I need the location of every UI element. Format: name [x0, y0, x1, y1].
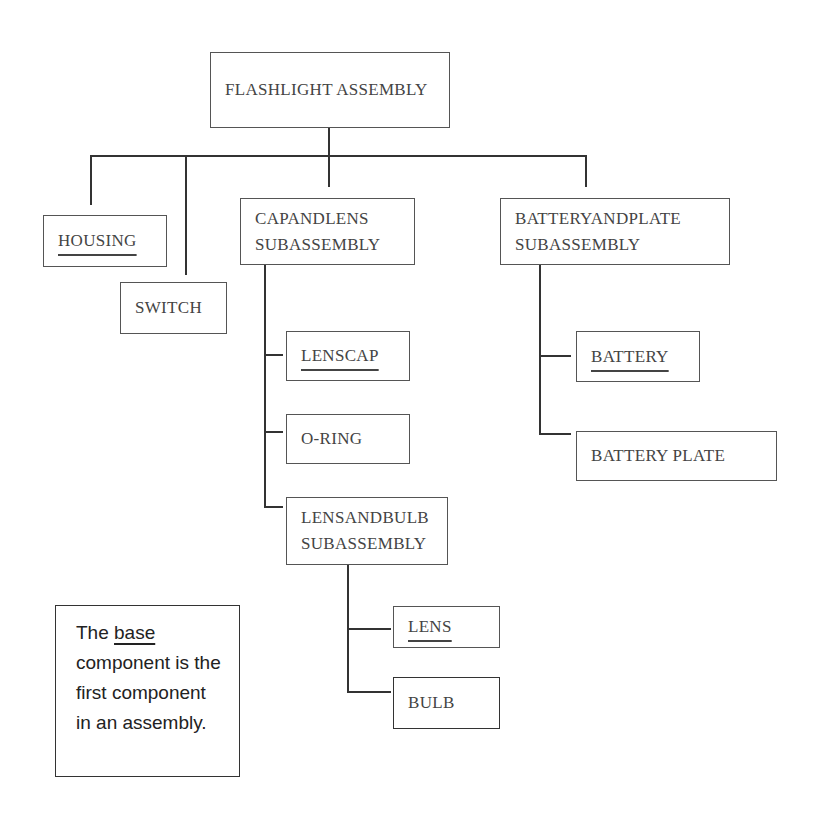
- node-battery: BATTERY: [576, 331, 700, 382]
- node-battery-plate: BATTERY PLATE: [576, 431, 777, 481]
- note-rest: component is the first component in an a…: [76, 652, 221, 733]
- node-label: BATTERY: [591, 344, 699, 370]
- connector-switch: [185, 155, 187, 275]
- node-label-line2: SUBASSEMBLY: [255, 232, 414, 258]
- node-capandlens-subassembly: CAPANDLENS SUBASSEMBLY: [240, 198, 415, 265]
- connector-oring: [264, 431, 283, 433]
- node-label: HOUSING: [58, 228, 166, 254]
- connector-battery: [539, 355, 571, 357]
- node-lenscap: LENSCAP: [286, 331, 410, 381]
- node-label: FLASHLIGHT ASSEMBLY: [225, 77, 449, 103]
- node-lens: LENS: [393, 606, 500, 648]
- node-flashlight-assembly: FLASHLIGHT ASSEMBLY: [210, 52, 450, 128]
- connector-batteryandplate: [585, 155, 587, 187]
- node-label: LENS: [408, 614, 499, 640]
- node-label: SWITCH: [135, 295, 226, 321]
- connector-capandlens-spine: [264, 264, 266, 507]
- note-keyword-base: base: [114, 622, 155, 643]
- node-label-line1: LENSANDBULB: [301, 505, 447, 531]
- node-batteryandplate-subassembly: BATTERYANDPLATE SUBASSEMBLY: [500, 198, 730, 265]
- node-bulb: BULB: [393, 677, 500, 729]
- connector-batteryplate: [539, 433, 571, 435]
- node-housing: HOUSING: [43, 215, 167, 267]
- connector-bulb: [347, 691, 391, 693]
- node-label-line2: SUBASSEMBLY: [515, 232, 729, 258]
- note-prefix: The: [76, 622, 114, 643]
- node-label-line2: SUBASSEMBLY: [301, 531, 447, 557]
- connector-lens: [347, 628, 391, 630]
- connector-capandlens: [328, 155, 330, 187]
- base-component-note: The base component is the first componen…: [55, 605, 240, 777]
- node-oring: O-RING: [286, 414, 410, 464]
- node-switch: SWITCH: [120, 282, 227, 334]
- connector-batteryandplate-spine: [539, 264, 541, 434]
- node-label: O-RING: [301, 426, 409, 452]
- node-label-line1: BATTERYANDPLATE: [515, 206, 729, 232]
- node-label: LENSCAP: [301, 343, 409, 369]
- node-lensandbulb-subassembly: LENSANDBULB SUBASSEMBLY: [286, 497, 448, 565]
- node-label: BULB: [408, 690, 499, 716]
- connector-root-down: [328, 128, 330, 156]
- connector-lenscap: [264, 354, 283, 356]
- connector-top-bus: [90, 155, 586, 157]
- node-label-line1: CAPANDLENS: [255, 206, 414, 232]
- assembly-diagram: FLASHLIGHT ASSEMBLY HOUSING SWITCH CAPAN…: [0, 0, 816, 814]
- node-label: BATTERY PLATE: [591, 443, 776, 469]
- connector-lensandbulb: [264, 506, 283, 508]
- connector-housing: [90, 155, 92, 205]
